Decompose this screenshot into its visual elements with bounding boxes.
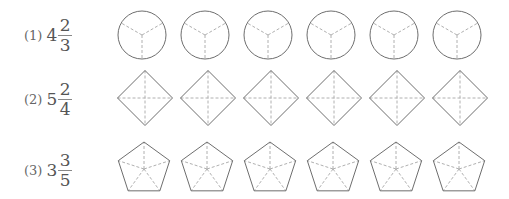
shapes-canvas [0, 0, 509, 199]
dashed-divider [268, 23, 289, 35]
dashed-divider [121, 23, 142, 35]
dashed-divider [181, 161, 207, 169]
circle-shape [181, 11, 229, 59]
dashed-divider [118, 161, 144, 169]
dashed-divider [207, 161, 233, 169]
diamond-shape [118, 71, 173, 126]
dashed-divider [205, 23, 226, 35]
dashed-divider [331, 23, 352, 35]
diamond-shape [307, 71, 362, 126]
dashed-divider [144, 169, 160, 191]
dashed-divider [207, 169, 223, 191]
circle-shape [307, 11, 355, 59]
pentagon-shape [244, 142, 295, 191]
dashed-divider [307, 161, 333, 169]
dashed-divider [247, 23, 268, 35]
pentagon-shape [307, 142, 358, 191]
dashed-divider [128, 169, 144, 191]
pentagon-shape [118, 142, 169, 191]
dashed-divider [142, 23, 163, 35]
dashed-divider [380, 169, 396, 191]
pentagon-shape [181, 142, 232, 191]
dashed-divider [433, 161, 459, 169]
dashed-divider [244, 161, 270, 169]
dashed-divider [396, 161, 422, 169]
dashed-divider [270, 169, 286, 191]
dashed-divider [310, 23, 331, 35]
dashed-divider [270, 161, 296, 169]
dashed-divider [333, 161, 359, 169]
diamond-shape [433, 71, 488, 126]
dashed-divider [333, 169, 349, 191]
dashed-divider [436, 23, 457, 35]
circle-shape [433, 11, 481, 59]
dashed-divider [457, 23, 478, 35]
dashed-divider [254, 169, 270, 191]
pentagon-shape [433, 142, 484, 191]
dashed-divider [144, 161, 170, 169]
dashed-divider [394, 23, 415, 35]
circle-shape [118, 11, 166, 59]
diamond-shape [244, 71, 299, 126]
dashed-divider [373, 23, 394, 35]
dashed-divider [191, 169, 207, 191]
circle-shape [244, 11, 292, 59]
dashed-divider [317, 169, 333, 191]
dashed-divider [459, 161, 485, 169]
dashed-divider [459, 169, 475, 191]
diamond-shape [181, 71, 236, 126]
pentagon-shape [370, 142, 421, 191]
dashed-divider [443, 169, 459, 191]
dashed-divider [370, 161, 396, 169]
circle-shape [370, 11, 418, 59]
dashed-divider [396, 169, 412, 191]
diamond-shape [370, 71, 425, 126]
dashed-divider [184, 23, 205, 35]
